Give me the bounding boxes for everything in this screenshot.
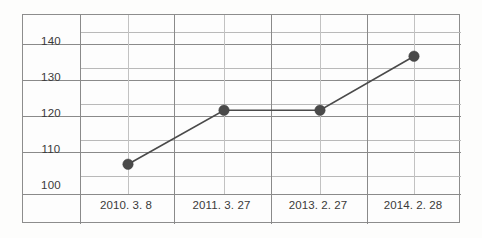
x-tick-label-3: 2014. 2. 28: [366, 199, 460, 211]
row-separator: [23, 44, 461, 45]
y-tick-label-110: 110: [22, 143, 80, 155]
y-tick-label-140: 140: [22, 35, 80, 47]
y-tick-label-120: 120: [22, 107, 80, 119]
chart-frame: [22, 14, 460, 223]
x-tick-label-2: 2013. 2. 27: [270, 199, 366, 211]
y-tick-label-100: 100: [22, 179, 80, 191]
y-tick-label-130: 130: [22, 71, 80, 83]
column-separator: [271, 15, 272, 224]
column-separator-axis: [80, 15, 81, 224]
row-separator: [23, 116, 461, 117]
category-tick-0: [128, 15, 129, 194]
column-separator: [174, 15, 175, 224]
row-separator: [23, 152, 461, 153]
line-chart: 140 130 120 110 100 2010. 3. 8 2011. 3. …: [0, 0, 482, 238]
row-separator: [23, 80, 461, 81]
row-separator: [23, 194, 461, 195]
category-tick-3: [414, 15, 415, 194]
category-tick-2: [320, 15, 321, 194]
column-separator: [367, 15, 368, 224]
x-tick-label-0: 2010. 3. 8: [79, 199, 173, 211]
category-tick-1: [224, 15, 225, 194]
x-tick-label-1: 2011. 3. 27: [173, 199, 270, 211]
